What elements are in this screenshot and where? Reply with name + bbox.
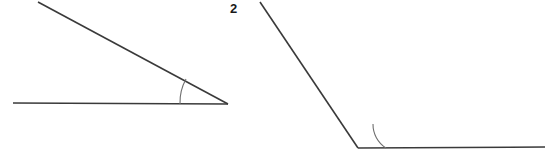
figure-right-number-label: 2 [230,2,237,15]
figure-left-acute-angle-arc [180,79,186,104]
figure-right-obtuse-angle-arc [373,124,386,148]
figure-canvas: 2 [0,0,545,152]
angle-figures-svg [0,0,545,152]
figure-right-slanted-ray [260,2,358,148]
figure-left-horizontal-ray [13,103,228,104]
figure-left-slanted-ray [38,2,228,104]
figure-right [260,2,545,148]
figure-left [13,2,228,104]
